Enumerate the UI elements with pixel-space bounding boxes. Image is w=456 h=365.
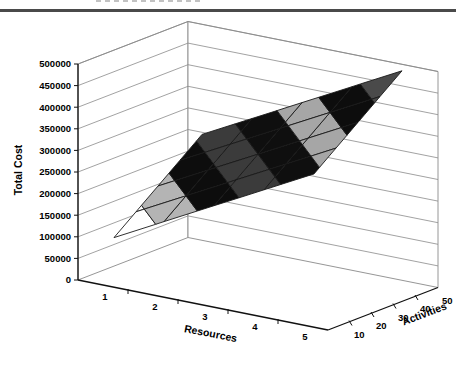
z-tick-label: 50000: [45, 253, 71, 264]
x-axis-title: Resources: [183, 322, 238, 344]
y-tick-label: 20: [376, 320, 387, 331]
x-tick-label: 3: [202, 311, 207, 322]
z-tick-label: 500000: [39, 58, 71, 69]
z-tick-label: 350000: [39, 123, 71, 134]
x-axis: [78, 280, 328, 330]
x-tick-label: 5: [302, 331, 308, 342]
total-cost-surface-chart: 0500001000001500002000002500003000003500…: [0, 0, 456, 365]
x-tick-label: 4: [252, 321, 258, 332]
z-tick-label: 100000: [39, 231, 71, 242]
y-tick-label: 10: [354, 329, 365, 340]
z-tick-label: 0: [66, 274, 71, 285]
x-tick-label: 1: [102, 291, 108, 302]
z-axis-title: Total Cost: [12, 144, 24, 195]
z-tick-label: 200000: [39, 188, 71, 199]
z-tick-label: 300000: [39, 145, 71, 156]
z-tick-label: 400000: [39, 102, 71, 113]
x-tick-label: 2: [152, 301, 157, 312]
z-tick-label: 150000: [39, 210, 71, 221]
z-tick-label: 250000: [39, 166, 71, 177]
z-tick-label: 450000: [39, 80, 71, 91]
